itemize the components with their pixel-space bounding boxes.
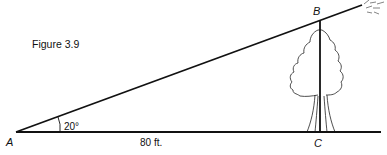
point-a-label: A bbox=[5, 136, 13, 148]
angle-label: 20° bbox=[64, 121, 79, 132]
sun-rays-icon bbox=[364, 0, 384, 14]
point-b-label: B bbox=[313, 5, 320, 17]
line-ab bbox=[16, 5, 362, 132]
figure-caption: Figure 3.9 bbox=[32, 38, 79, 50]
point-c-label: C bbox=[314, 137, 322, 149]
triangle-diagram: Figure 3.9 A B C 20° 80 ft. bbox=[0, 0, 387, 155]
angle-arc bbox=[58, 117, 60, 132]
distance-label: 80 ft. bbox=[140, 137, 162, 148]
tree-icon bbox=[290, 30, 343, 132]
